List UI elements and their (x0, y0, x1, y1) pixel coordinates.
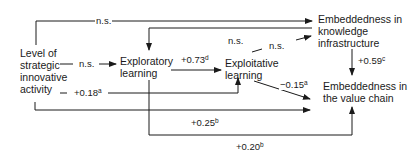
coef-level-to-valuechain: +0.25b (190, 117, 220, 128)
coef-exploratory-to-valuechain: +0.20b (235, 141, 265, 152)
coef-value: n.s. (79, 58, 94, 69)
coef-knowledge-to-exploratory: n.s. (227, 35, 244, 46)
coef-value: n.s. (269, 40, 284, 51)
node-exploitative: Exploitative learning (225, 57, 279, 81)
coef-sup: b (215, 117, 219, 124)
node-exploitative-line: Exploitative (225, 57, 279, 69)
node-exploratory-line: learning (120, 67, 173, 79)
coef-value: n.s. (228, 35, 243, 46)
node-level-line: innovative (20, 71, 67, 83)
coef-sup: d (205, 54, 209, 61)
node-valuechain: Embeddedness in the value chain (323, 80, 407, 104)
coef-sup: c (382, 55, 385, 62)
coef-value: n.s. (96, 15, 111, 26)
coef-value: −0.15 (280, 79, 304, 90)
node-valuechain-line: Embeddedness in (323, 80, 407, 92)
node-exploitative-line: learning (225, 69, 279, 81)
coef-value: +0.20 (236, 141, 260, 152)
edge-exploitative-to-knowledge (296, 36, 311, 40)
coef-sup: a (98, 87, 102, 94)
node-knowledge-line: Embeddedness in (318, 13, 402, 25)
coef-exploitative-to-knowledge: n.s. (268, 40, 285, 51)
coef-value: +0.25 (191, 117, 215, 128)
node-level-line: Level of (20, 47, 67, 59)
coef-exploratory-to-exploitative: +0.73d (180, 54, 210, 65)
coef-value: +0.18 (74, 87, 98, 98)
node-knowledge-line: knowledge (318, 25, 402, 37)
node-level: Level of strategic innovative activity (20, 47, 67, 95)
coef-value: +0.73 (181, 54, 205, 65)
coef-value: +0.59 (358, 55, 382, 66)
coef-level-to-exploitative: +0.18a (73, 87, 103, 98)
node-level-line: activity (20, 83, 67, 95)
coef-sup: b (260, 141, 264, 148)
coef-level-to-exploratory: n.s. (78, 58, 95, 69)
node-level-line: strategic (20, 59, 67, 71)
node-knowledge: Embeddedness in knowledge infrastructure (318, 13, 402, 49)
node-exploratory-line: Exploratory (120, 55, 173, 67)
node-exploratory: Exploratory learning (120, 55, 173, 79)
coef-exploitative-to-valuechain: −0.15a (279, 79, 309, 90)
node-valuechain-line: the value chain (323, 92, 407, 104)
edge-exploratory-to-valuechain (149, 80, 352, 135)
node-knowledge-line: infrastructure (318, 37, 402, 49)
edge-level-to-valuechain (35, 102, 310, 110)
coef-sup: a (304, 79, 308, 86)
coef-knowledge-to-valuechain: +0.59c (357, 55, 386, 66)
coef-level-to-knowledge: n.s. (95, 15, 112, 26)
